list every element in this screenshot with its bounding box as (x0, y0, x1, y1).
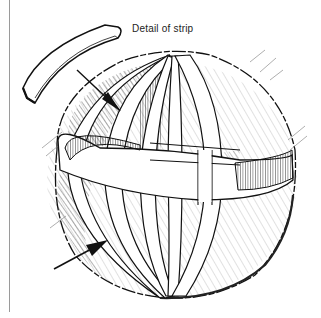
sphere-strip-illustration (0, 0, 321, 318)
